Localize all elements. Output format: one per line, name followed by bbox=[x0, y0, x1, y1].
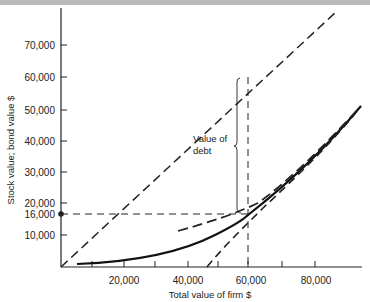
y-tick-label: 30,000 bbox=[24, 167, 55, 178]
y-tick-label: 50,000 bbox=[24, 105, 55, 116]
x-axis-title: Total value of firm $ bbox=[169, 289, 252, 300]
y-tick-label: 16,000 bbox=[24, 209, 55, 220]
x-tick-label: 40,000 bbox=[173, 275, 204, 286]
chart: 20,000 40,000 60,000 80,000 Total value … bbox=[0, 0, 370, 302]
x-tick-label: 60,000 bbox=[236, 275, 267, 286]
annotation-debt: debt bbox=[193, 145, 212, 156]
x-tick-label: 20,000 bbox=[109, 275, 140, 286]
y-tick-label: 60,000 bbox=[24, 72, 55, 83]
x-tick-label: 80,000 bbox=[301, 275, 332, 286]
debt-brace bbox=[234, 78, 241, 213]
y-tick-label: 40,000 bbox=[24, 136, 55, 147]
x-ticks bbox=[92, 261, 315, 267]
y-tick-label: 20,000 bbox=[24, 198, 55, 209]
y-tick-label: 70,000 bbox=[24, 40, 55, 51]
y-ticks bbox=[61, 45, 67, 235]
point-marker bbox=[58, 211, 64, 217]
stock-value-curve bbox=[77, 106, 361, 264]
upper-dashed-curve bbox=[178, 106, 361, 231]
y-axis-title: Stock value; bond value $ bbox=[5, 95, 16, 205]
y-tick-label: 10,000 bbox=[24, 230, 55, 241]
annotation-value-of-debt: Value of bbox=[193, 133, 228, 144]
